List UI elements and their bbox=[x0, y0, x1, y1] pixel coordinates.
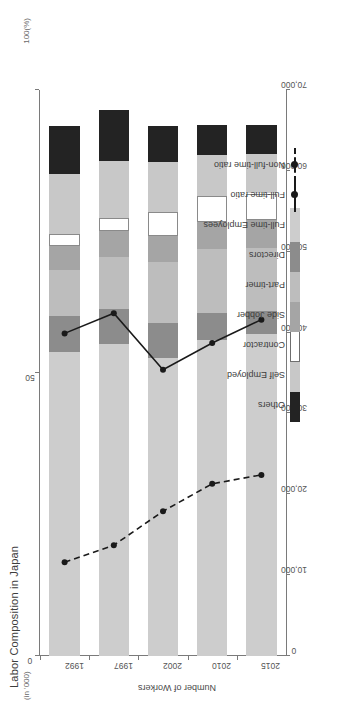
line-series-marker[interactable] bbox=[111, 310, 117, 316]
secondary-axis-tick bbox=[35, 655, 39, 656]
line-series-marker[interactable] bbox=[111, 542, 117, 548]
legend-label: Self Employed bbox=[227, 370, 285, 380]
legend-label: Full-time ratio bbox=[230, 190, 285, 200]
legend-item[interactable]: Full-time Employees bbox=[203, 208, 300, 242]
legend-swatch bbox=[290, 358, 300, 392]
legend-swatch bbox=[290, 208, 300, 242]
value-axis-tick-label: 0 bbox=[292, 646, 297, 656]
category-axis-tick bbox=[138, 656, 139, 660]
legend-line-marker bbox=[290, 178, 300, 212]
legend-swatch bbox=[290, 298, 300, 332]
line-series-marker[interactable] bbox=[209, 481, 215, 487]
legend-item[interactable]: Contractor bbox=[243, 328, 300, 362]
legend-label: Directors bbox=[249, 250, 285, 260]
secondary-axis-tick-label: 50 bbox=[25, 373, 34, 383]
legend-item[interactable]: Directors bbox=[249, 238, 300, 272]
legend-item[interactable]: Non-full-time ratio bbox=[214, 148, 300, 182]
legend-swatch bbox=[290, 328, 300, 362]
line-series-marker[interactable] bbox=[62, 559, 68, 565]
category-axis-label: 1992 bbox=[65, 661, 84, 671]
legend-swatch bbox=[290, 388, 300, 422]
line-series-marker[interactable] bbox=[160, 508, 166, 514]
legend-swatch bbox=[290, 268, 300, 302]
category-axis-tick bbox=[89, 656, 90, 660]
legend-label: Others bbox=[258, 400, 285, 410]
line-series-marker[interactable] bbox=[160, 367, 166, 373]
legend-item[interactable]: Others bbox=[258, 388, 300, 422]
value-axis-tick bbox=[286, 655, 290, 656]
category-axis-label: 2010 bbox=[212, 661, 231, 671]
category-axis-tick bbox=[40, 656, 41, 660]
chart-title: Labor Composition in Japan bbox=[8, 546, 20, 688]
line-series-marker[interactable] bbox=[258, 472, 264, 478]
legend-label: Side Jobber bbox=[237, 310, 285, 320]
category-axis-label: 1997 bbox=[114, 661, 133, 671]
legend-label: Non-full-time ratio bbox=[214, 160, 285, 170]
line-series-marker[interactable] bbox=[62, 330, 68, 336]
line-series-marker[interactable] bbox=[209, 340, 215, 346]
legend-swatch bbox=[290, 238, 300, 272]
secondary-axis-tick bbox=[35, 372, 39, 373]
legend-label: Contractor bbox=[243, 340, 285, 350]
category-axis-label: 2015 bbox=[261, 661, 280, 671]
line-series-dashed bbox=[65, 475, 262, 562]
category-axis-label: 2002 bbox=[163, 661, 182, 671]
secondary-axis-tick bbox=[35, 89, 39, 90]
y-axis-unit-note: (in '000) bbox=[22, 671, 31, 700]
legend-item[interactable]: Full-time ratio bbox=[230, 178, 300, 212]
legend-item[interactable]: Side Jobber bbox=[237, 298, 300, 332]
legend-line-marker bbox=[290, 148, 300, 182]
secondary-axis-unit-note: 100(%) bbox=[22, 18, 31, 44]
value-axis-tick-label: 70,000 bbox=[281, 80, 307, 90]
category-axis-tick bbox=[188, 656, 189, 660]
secondary-axis-tick-label: 0 bbox=[28, 656, 33, 666]
legend-item[interactable]: Self Employed bbox=[227, 358, 300, 392]
figure-stage: Labor Composition in Japan Number of Wor… bbox=[0, 0, 360, 722]
legend-item[interactable]: Part-timer bbox=[245, 268, 300, 302]
chart-figure: Labor Composition in Japan Number of Wor… bbox=[0, 0, 360, 722]
legend-label: Part-timer bbox=[245, 280, 285, 290]
y-axis-title: Number of Workers bbox=[97, 683, 257, 693]
legend-label: Full-time Employees bbox=[203, 220, 285, 230]
category-axis-tick bbox=[237, 656, 238, 660]
